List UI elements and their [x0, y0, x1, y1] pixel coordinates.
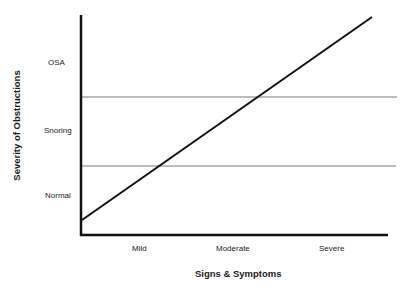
- trend-line: [82, 17, 372, 220]
- y-tick-osa: OSA: [48, 58, 65, 67]
- x-tick-mild: Mild: [132, 244, 147, 253]
- y-axis-title: Severity of Obstructions: [11, 66, 22, 186]
- x-axis-title: Signs & Symptoms: [195, 268, 282, 279]
- y-tick-normal: Normal: [45, 191, 71, 200]
- y-tick-snoring: Snoring: [44, 126, 72, 135]
- x-tick-moderate: Moderate: [216, 244, 250, 253]
- x-tick-severe: Severe: [319, 244, 344, 253]
- diagram-canvas: [0, 0, 407, 296]
